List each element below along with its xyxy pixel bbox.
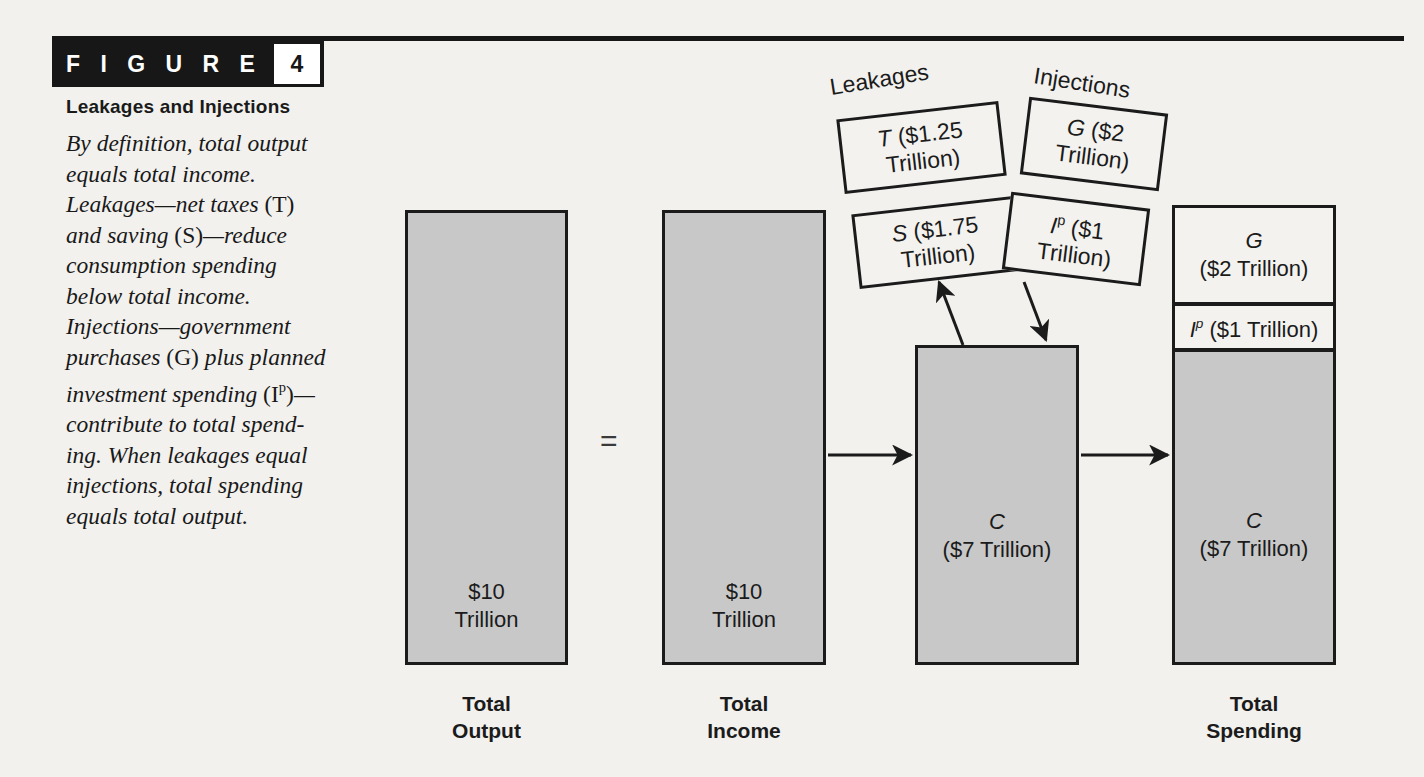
figure-caption-line: Injections—government [66,313,291,339]
injection-box-government-text: G ($2 Trillion) [1054,113,1135,176]
figure-caption-line: purchases (G) plus planned [66,344,326,370]
figure-caption-line: Leakages—net taxes (T) [66,191,294,217]
figure-caption-line: below total income. [66,283,251,309]
bar-spending-segment-g: G ($2 Trillion) [1172,205,1336,305]
bar-consumption: C ($7 Trillion) [915,345,1079,665]
leakage-box-saving: S ($1.75 Trillion) [851,196,1021,289]
axis-label-total-output-line1: Total [462,692,511,715]
figure-caption-line: By definition, total output [66,130,308,156]
axis-label-total-spending-line2: Spending [1206,719,1302,742]
bar-total-income-value-line2: Trillion [712,607,776,632]
axis-label-total-income-line1: Total [720,692,769,715]
axis-label-total-output: Total Output [405,690,568,744]
axis-label-total-spending-line1: Total [1230,692,1279,715]
injections-group-label: Injections [1032,62,1132,104]
bar-consumption-label: C ($7 Trillion) [918,508,1076,564]
bar-total-output-value-line1: $10 [468,579,505,604]
bar-total-output: $10 Trillion [405,210,568,665]
injection-box-government-amount-line1: ($2 [1090,117,1126,147]
leakage-box-saving-amount-line2: Trillion) [899,238,976,272]
axis-label-total-spending: Total Spending [1172,690,1336,744]
axis-label-total-income: Total Income [662,690,826,744]
figure-caption-line: equals total output. [66,503,248,529]
axis-label-total-income-line2: Income [707,719,781,742]
leakages-group-label: Leakages [828,59,931,101]
bar-spending-segment-ip-amount: ($1 Trillion) [1210,317,1319,342]
bar-spending-segment-ip-superscript: p [1196,316,1204,331]
bar-spending-segment-c-symbol: C [1246,508,1262,533]
bar-spending-segment-g-label: G ($2 Trillion) [1175,227,1333,283]
arrow-injection-down [1024,282,1046,340]
figure-page: F I G U R E 4 Leakages and Injections By… [0,0,1424,777]
leakage-box-taxes-symbol: T [876,124,893,151]
figure-caption: By definition, total outputequals total … [66,128,362,531]
figure-number: 4 [274,44,320,84]
bar-spending-segment-c-label: C ($7 Trillion) [1175,507,1333,563]
bar-spending-segment-c-amount: ($7 Trillion) [1200,536,1309,561]
leakage-box-taxes-amount-line2: Trillion) [884,143,961,177]
bar-total-output-value: $10 Trillion [408,578,565,634]
injection-box-government: G ($2 Trillion) [1020,97,1168,191]
bar-spending-segment-g-amount: ($2 Trillion) [1200,256,1309,281]
injection-box-investment: Ip ($1 Trillion) [1002,192,1150,286]
axis-label-total-output-line2: Output [452,719,521,742]
bar-total-output-value-line2: Trillion [455,607,519,632]
bar-consumption-amount: ($7 Trillion) [943,537,1052,562]
bar-spending-segment-ip: Ip ($1 Trillion) [1172,303,1336,351]
equals-sign: = [600,424,618,458]
arrow-leakage-up [939,282,963,345]
bar-total-income-value-line1: $10 [726,579,763,604]
figure-caption-line: equals total income. [66,161,256,187]
injection-box-government-symbol: G [1066,114,1087,142]
leakage-box-saving-symbol: S [890,219,908,247]
figure-word: F I G U R E [66,41,274,87]
figure-title: Leakages and Injections [66,96,290,118]
bar-total-income: $10 Trillion [662,210,826,665]
leakage-box-taxes: T ($1.25 Trillion) [836,101,1006,194]
figure-caption-line: investment spending (Ip)— [66,381,315,407]
figure-caption-line: consumption spending [66,252,277,278]
bar-spending-segment-c: C ($7 Trillion) [1172,349,1336,665]
leakage-box-saving-text: S ($1.75 Trillion) [890,211,983,274]
figure-caption-line: contribute to total spend- [66,411,304,437]
injection-box-investment-superscript: p [1057,212,1067,229]
figure-caption-line: and saving (S)—reduce [66,222,287,248]
leakage-box-taxes-text: T ($1.25 Trillion) [876,116,967,179]
bar-total-income-value: $10 Trillion [665,578,823,634]
figure-caption-line: injections, total spending [66,472,303,498]
bar-spending-segment-ip-label: Ip ($1 Trillion) [1175,310,1333,345]
injection-box-investment-amount-line1: ($1 [1070,214,1106,244]
bar-spending-segment-g-symbol: G [1245,228,1262,253]
bar-consumption-symbol: C [989,509,1005,534]
figure-tab: F I G U R E 4 [52,41,324,87]
figure-caption-line: ing. When leakages equal [66,442,307,468]
injection-box-investment-text: Ip ($1 Trillion) [1035,205,1116,274]
